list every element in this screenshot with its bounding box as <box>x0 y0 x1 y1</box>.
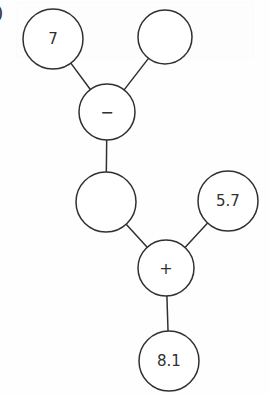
node-label: 5.7 <box>216 192 240 210</box>
tree-node[interactable]: + <box>138 240 194 296</box>
tree-node[interactable]: 5.7 <box>198 171 258 231</box>
tree-node[interactable] <box>76 172 136 232</box>
tree-edge <box>124 58 148 89</box>
tree-node[interactable]: 7 <box>23 9 83 69</box>
tree-edge <box>71 63 91 89</box>
tree-node[interactable]: − <box>79 84 135 140</box>
node-label: 7 <box>48 30 58 48</box>
nodes-layer: 7−5.7+8.1 <box>23 9 258 391</box>
figure-canvas: ) 7−5.7+8.1 <box>0 0 269 394</box>
tree-edge <box>167 296 168 331</box>
tree-edge <box>185 223 208 247</box>
tree-edge <box>126 224 147 247</box>
tree-node[interactable] <box>138 10 192 64</box>
expression-tree-graphic: 7−5.7+8.1 <box>0 0 269 394</box>
node-label: 8.1 <box>157 352 181 370</box>
node-circle <box>76 172 136 232</box>
tree-node[interactable]: 8.1 <box>139 331 199 391</box>
node-label: + <box>159 259 172 278</box>
node-label: − <box>100 103 113 122</box>
node-circle <box>138 10 192 64</box>
